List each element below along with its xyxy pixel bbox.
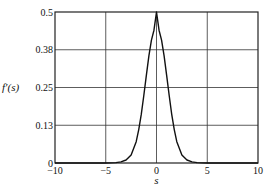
x-tick-label: 10 (253, 165, 263, 176)
chart: −10−50510 00.130.250.380.5 s f′(s) (0, 0, 273, 192)
y-tick-labels: 00.130.250.380.5 (36, 7, 54, 169)
x-tick-label: −5 (100, 165, 111, 176)
y-tick-label: 0 (48, 158, 53, 169)
y-tick-label: 0.25 (36, 82, 54, 93)
y-tick-label: 0.13 (36, 120, 54, 131)
y-axis-label: f′(s) (2, 81, 19, 94)
y-tick-label: 0.5 (41, 7, 54, 18)
x-axis-label: s (154, 174, 158, 186)
y-tick-label: 0.38 (36, 44, 54, 55)
grid-lines (55, 12, 258, 163)
x-tick-label: 5 (205, 165, 210, 176)
